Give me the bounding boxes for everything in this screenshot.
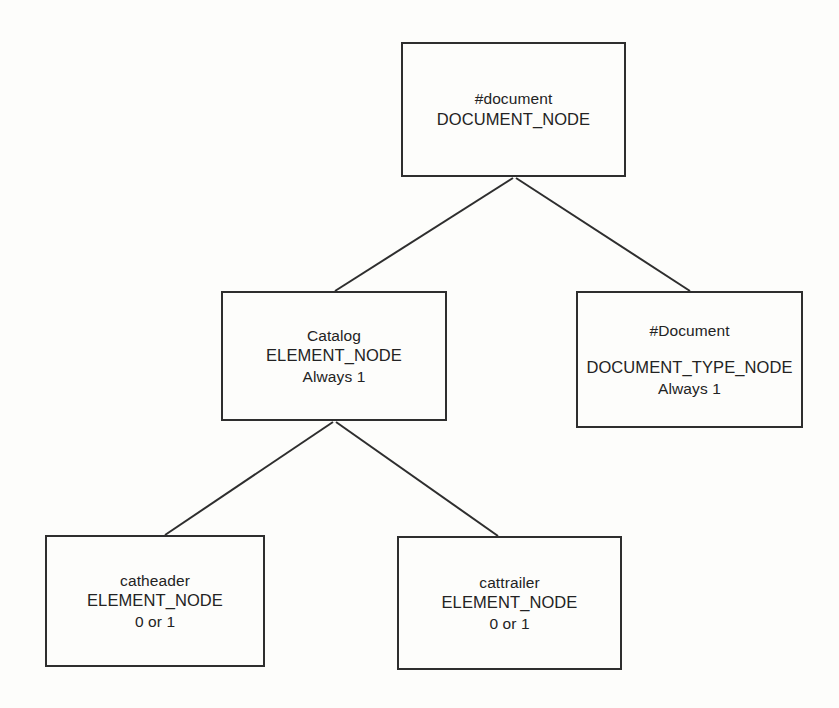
- node-document-type-cardinality: Always 1: [658, 379, 721, 399]
- node-cattrailer-cardinality: 0 or 1: [489, 614, 529, 634]
- connector-catalog-cattrailer: [336, 422, 498, 536]
- node-document-type: DOCUMENT_NODE: [437, 109, 590, 130]
- node-document-type-name: #Document: [649, 321, 729, 341]
- node-catalog[interactable]: Catalog ELEMENT_NODE Always 1: [221, 291, 447, 421]
- node-catheader[interactable]: catheader ELEMENT_NODE 0 or 1: [45, 535, 265, 667]
- node-cattrailer[interactable]: cattrailer ELEMENT_NODE 0 or 1: [397, 536, 622, 670]
- node-document-type[interactable]: #Document DOCUMENT_TYPE_NODE Always 1: [576, 291, 803, 428]
- connector-catalog-catheader: [165, 422, 333, 535]
- node-catheader-cardinality: 0 or 1: [135, 612, 175, 632]
- node-cattrailer-name: cattrailer: [479, 573, 539, 593]
- dom-tree-diagram: #document DOCUMENT_NODE Catalog ELEMENT_…: [0, 0, 839, 708]
- node-catalog-cardinality: Always 1: [303, 367, 366, 387]
- connector-document-catalog: [335, 178, 513, 291]
- connector-document-doctype: [516, 178, 690, 291]
- node-document-type-type: DOCUMENT_TYPE_NODE: [586, 357, 792, 378]
- node-document[interactable]: #document DOCUMENT_NODE: [401, 42, 626, 177]
- node-catheader-name: catheader: [120, 571, 190, 591]
- node-document-name: #document: [475, 89, 553, 109]
- node-catalog-type: ELEMENT_NODE: [266, 345, 402, 366]
- node-catheader-type: ELEMENT_NODE: [87, 590, 223, 611]
- node-cattrailer-type: ELEMENT_NODE: [442, 592, 578, 613]
- node-catalog-name: Catalog: [307, 326, 361, 346]
